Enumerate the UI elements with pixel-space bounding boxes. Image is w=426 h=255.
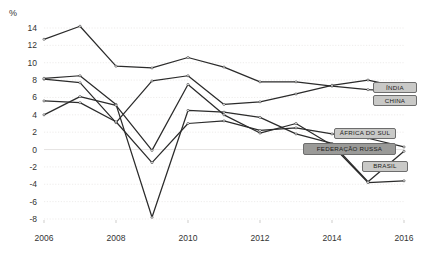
svg-text:10: 10 <box>28 58 38 68</box>
series-callout-federacao-russa: FEDERAÇÃO RUSSA <box>303 143 396 155</box>
series-marker <box>187 122 189 124</box>
series-marker <box>259 129 261 131</box>
svg-text:-4: -4 <box>29 179 37 189</box>
series-marker <box>295 127 297 129</box>
svg-text:2014: 2014 <box>323 233 342 243</box>
series-marker <box>79 102 81 104</box>
series-marker <box>223 120 225 122</box>
series-marker <box>115 121 117 123</box>
series-marker <box>223 103 225 105</box>
series-marker <box>223 114 225 116</box>
series-marker <box>79 82 81 84</box>
x-axis-tick-labels: 200620082010201220142016 <box>35 233 414 243</box>
svg-text:2006: 2006 <box>35 233 54 243</box>
series-marker <box>367 79 369 81</box>
svg-text:2010: 2010 <box>179 233 198 243</box>
series-marker <box>259 132 261 134</box>
series-line-china <box>44 26 404 91</box>
series-marker <box>43 77 45 79</box>
series-marker <box>115 104 117 106</box>
series-marker <box>331 84 333 86</box>
series-marker <box>295 93 297 95</box>
svg-text:-6: -6 <box>29 197 37 207</box>
svg-text:2: 2 <box>32 127 37 137</box>
svg-text:2012: 2012 <box>251 233 270 243</box>
series-marker <box>223 66 225 68</box>
series-marker <box>367 181 369 183</box>
series-marker <box>187 83 189 85</box>
series-callout-africa-do-sul: ÁFRICA DO SUL <box>334 128 396 139</box>
series-marker <box>403 146 405 148</box>
series-marker <box>79 75 81 77</box>
gridlines <box>44 28 404 219</box>
series-marker <box>367 89 369 91</box>
series-markers <box>43 25 405 218</box>
svg-text:-8: -8 <box>29 214 37 224</box>
series-marker <box>187 56 189 58</box>
series-marker <box>151 216 153 218</box>
svg-text:8: 8 <box>32 75 37 85</box>
series-marker <box>151 80 153 82</box>
series-marker <box>295 81 297 83</box>
series-marker <box>187 109 189 111</box>
series-marker <box>295 122 297 124</box>
series-marker <box>151 161 153 163</box>
series-marker <box>259 81 261 83</box>
x-axis-tickmarks <box>44 220 404 223</box>
svg-text:12: 12 <box>28 40 38 50</box>
series-callout-brasil: BRASIL <box>362 161 408 172</box>
svg-text:0: 0 <box>32 145 37 155</box>
svg-text:2016: 2016 <box>395 233 414 243</box>
series-marker <box>43 114 45 116</box>
series-marker <box>43 100 45 102</box>
series-marker <box>331 133 333 135</box>
series-callout-china: CHINA <box>373 95 417 106</box>
series-marker <box>403 180 405 182</box>
svg-text:6: 6 <box>32 92 37 102</box>
series-marker <box>259 116 261 118</box>
series-marker <box>115 65 117 67</box>
svg-text:4: 4 <box>32 110 37 120</box>
svg-text:-2: -2 <box>29 162 37 172</box>
series-marker <box>151 149 153 151</box>
series-marker <box>403 150 405 152</box>
series-marker <box>223 111 225 113</box>
series-marker <box>295 133 297 135</box>
series-marker <box>151 67 153 69</box>
series-marker <box>259 101 261 103</box>
svg-text:14: 14 <box>28 23 38 33</box>
series-marker <box>79 25 81 27</box>
series-marker <box>79 95 81 97</box>
y-axis-tick-labels: 14121086420-2-4-6-8 <box>28 23 38 224</box>
series-marker <box>187 75 189 77</box>
brics-growth-chart: % 14121086420-2-4-6-8 200620082010201220… <box>0 0 426 255</box>
series-marker <box>43 38 45 40</box>
series-callout-india: ÍNDIA <box>373 82 417 93</box>
svg-text:2008: 2008 <box>107 233 126 243</box>
